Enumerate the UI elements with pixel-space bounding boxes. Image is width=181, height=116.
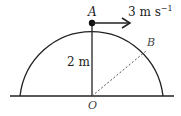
radius-label: 2 m	[67, 56, 90, 68]
label-B: B	[147, 37, 155, 48]
radius-OB-dashed	[92, 51, 146, 96]
hemisphere-diagram: A 3 m s−1 B 2 m O	[0, 0, 181, 116]
label-O: O	[88, 100, 97, 111]
label-A: A	[88, 6, 97, 18]
velocity-label: 3 m s−1	[128, 6, 173, 18]
